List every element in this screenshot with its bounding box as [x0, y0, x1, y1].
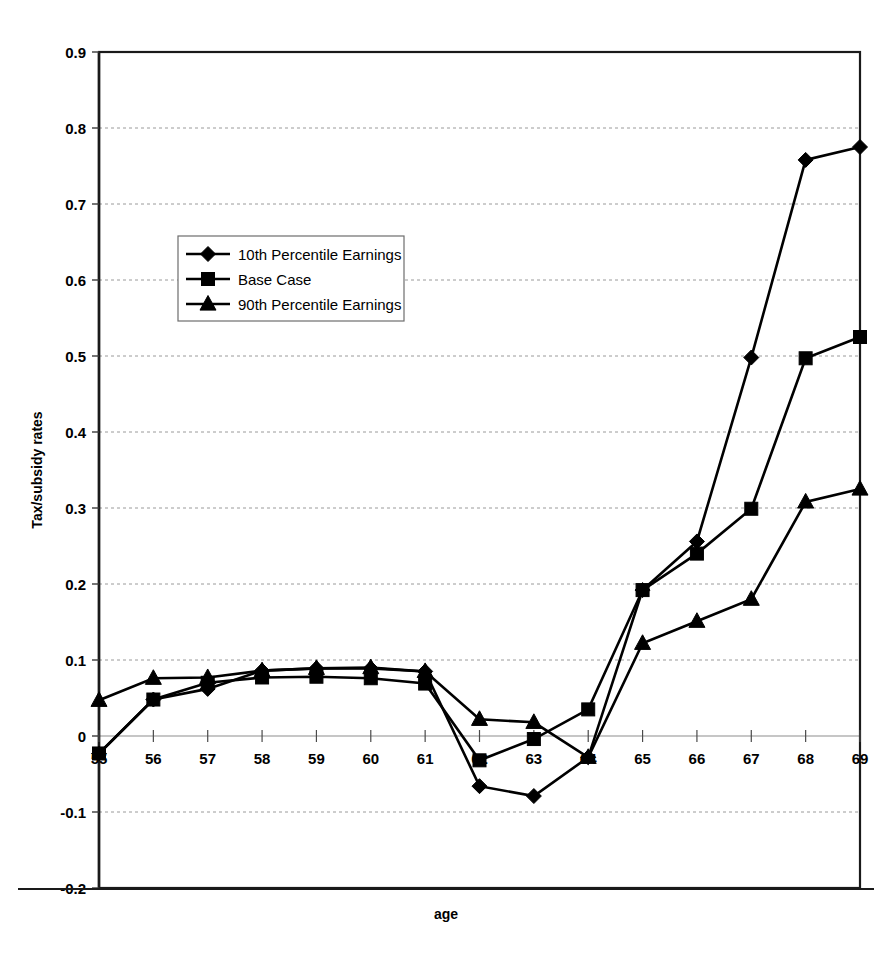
y-tick-label: -0.1 [60, 804, 86, 821]
y-axis-title-group: Tax/subsidy rates [29, 411, 45, 528]
x-tick-label: 69 [852, 750, 869, 767]
y-tick-label: 0.1 [65, 652, 86, 669]
x-tick-label: 56 [145, 750, 162, 767]
y-tick-label: 0.3 [65, 500, 86, 517]
chart-legend: 10th Percentile EarningsBase Case90th Pe… [178, 236, 404, 321]
data-point-square-icon [93, 747, 106, 760]
data-point-square-icon [527, 733, 540, 746]
x-tick-label: 57 [199, 750, 216, 767]
data-point-square-icon [745, 502, 758, 515]
data-point-square-icon [582, 703, 595, 716]
legend-entry-2: Base Case [186, 271, 311, 288]
x-tick-label: 59 [308, 750, 325, 767]
y-tick-label: 0.5 [65, 348, 86, 365]
y-tick-label: 0.2 [65, 576, 86, 593]
y-tick-label: 0.7 [65, 196, 86, 213]
data-point-square-icon [419, 677, 432, 690]
x-tick-label: 63 [526, 750, 543, 767]
y-tick-label: 0.6 [65, 272, 86, 289]
data-point-square-icon [690, 547, 703, 560]
y-tick-label: 0 [78, 728, 86, 745]
data-point-square-icon [636, 584, 649, 597]
x-tick-label: 60 [362, 750, 379, 767]
legend-label: 10th Percentile Earnings [238, 246, 401, 263]
data-point-square-icon [473, 754, 486, 767]
x-tick-label: 61 [417, 750, 434, 767]
y-axis-title: Tax/subsidy rates [29, 411, 45, 528]
x-tick-label: 65 [634, 750, 651, 767]
x-tick-label: 66 [689, 750, 706, 767]
x-tick-label: 68 [797, 750, 814, 767]
chart-container: -0.2-0.100.10.20.30.40.50.60.70.80.9 555… [0, 0, 892, 955]
data-point-square-icon [854, 331, 867, 344]
y-tick-label: 0.4 [65, 424, 87, 441]
x-axis-title: age [434, 906, 458, 922]
line-chart: -0.2-0.100.10.20.30.40.50.60.70.80.9 555… [0, 0, 892, 955]
data-point-square-icon [799, 352, 812, 365]
y-tick-label: 0.8 [65, 120, 86, 137]
chart-background [0, 0, 892, 955]
x-tick-label: 58 [254, 750, 271, 767]
legend-label: 90th Percentile Earnings [238, 296, 401, 313]
legend-label: Base Case [238, 271, 311, 288]
legend-marker-square-icon [202, 273, 215, 286]
x-tick-label: 67 [743, 750, 760, 767]
y-tick-label: 0.9 [65, 44, 86, 61]
data-point-square-icon [147, 693, 160, 706]
